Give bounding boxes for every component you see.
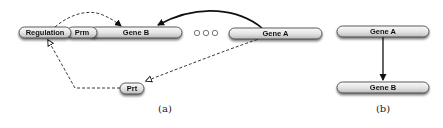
edge-gene-a-to-prt bbox=[146, 38, 262, 81]
panel-b: Gene A Gene B (b) bbox=[337, 26, 429, 114]
gene-regulation-diagram: Gene B Prm Regulation Gene A Prt (a) bbox=[0, 0, 443, 128]
node-label: Prt bbox=[127, 84, 138, 93]
panel-a: Gene B Prm Regulation Gene A Prt (a) bbox=[19, 11, 322, 114]
node-prm: Prm bbox=[67, 27, 97, 38]
node-label: Gene A bbox=[263, 29, 290, 38]
node-prt: Prt bbox=[120, 83, 144, 94]
node-gene-a: Gene A bbox=[337, 26, 429, 37]
node-label: Prm bbox=[75, 28, 90, 37]
edge-prt-to-regulation bbox=[48, 40, 120, 88]
node-regulation: Regulation bbox=[19, 27, 71, 38]
node-gene-b: Gene B bbox=[90, 27, 182, 38]
node-gene-b: Gene B bbox=[337, 82, 429, 93]
node-gene-a: Gene A bbox=[229, 28, 322, 39]
panel-a-caption: (a) bbox=[158, 103, 172, 114]
node-label: Gene B bbox=[123, 28, 150, 37]
ellipsis-icon bbox=[194, 30, 217, 35]
panel-b-caption: (b) bbox=[376, 103, 390, 114]
node-label: Gene B bbox=[370, 83, 397, 92]
node-label: Gene A bbox=[370, 27, 397, 36]
edge-regulation-to-gene-b bbox=[55, 12, 121, 27]
node-label: Regulation bbox=[26, 28, 65, 37]
edge-gene-a-to-gene-b bbox=[158, 11, 262, 28]
